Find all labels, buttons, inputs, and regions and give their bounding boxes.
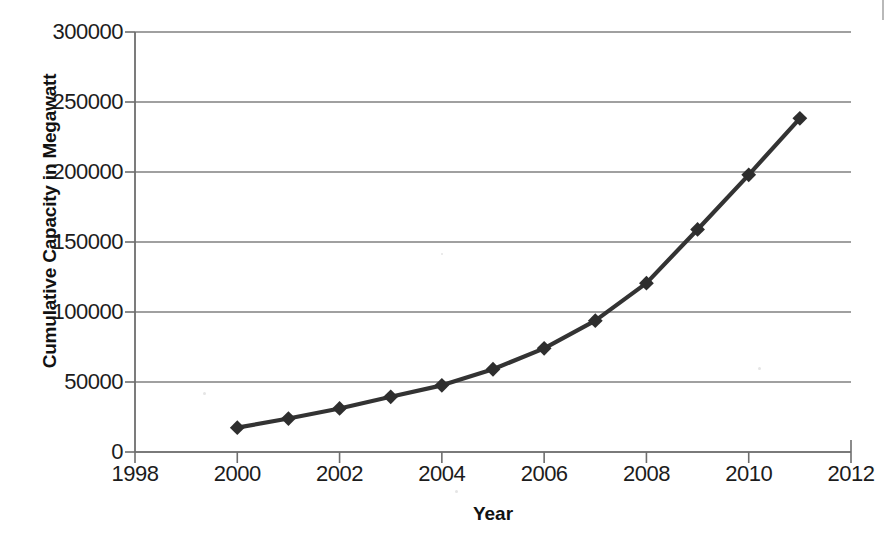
- scan-speckle: [758, 367, 761, 370]
- data-point-markers: [230, 111, 807, 435]
- gridlines: [135, 32, 851, 452]
- y-axis-ticks: [125, 32, 135, 452]
- data-point-2000: [230, 420, 245, 435]
- x-tick-label: 2010: [704, 462, 794, 486]
- x-tick-label: 2000: [192, 462, 282, 486]
- x-tick-label: 2002: [295, 462, 385, 486]
- x-axis-title: Year: [135, 503, 851, 525]
- data-point-2004: [434, 378, 449, 393]
- page-edge-artifact: [882, 0, 884, 20]
- scan-speckle: [203, 392, 206, 395]
- x-tick-label: 2006: [499, 462, 589, 486]
- data-point-2005: [486, 362, 501, 377]
- x-axis-tick-labels: 19982000200220042006200820102012: [0, 462, 886, 502]
- x-tick-label: 2004: [397, 462, 487, 486]
- x-tick-label: 2008: [601, 462, 691, 486]
- x-tick-label: 1998: [90, 462, 180, 486]
- scan-speckle: [455, 490, 458, 493]
- scan-speckle: [441, 253, 443, 255]
- x-tick-label: 2012: [806, 462, 886, 486]
- chart-container: Cumulative Capacity in Megawatt 05000010…: [0, 0, 886, 541]
- data-line-series: [237, 118, 800, 427]
- data-point-2001: [281, 411, 296, 426]
- plot-area: [0, 0, 886, 541]
- data-point-2003: [383, 389, 398, 404]
- data-point-2002: [332, 401, 347, 416]
